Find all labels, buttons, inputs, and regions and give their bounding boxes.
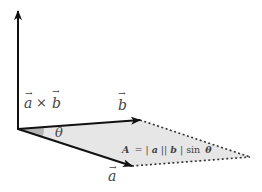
vector-b-label: b → bbox=[118, 88, 127, 113]
formula-A: A bbox=[121, 144, 129, 155]
cross-product-label: a → × b → bbox=[24, 86, 61, 111]
area-formula: A = | a || b | sin θ bbox=[121, 144, 212, 156]
arrow-accent: → bbox=[118, 88, 126, 98]
angle-theta-label: θ bbox=[55, 125, 63, 140]
formula-b: b bbox=[170, 144, 177, 155]
formula-sin: | sin bbox=[180, 144, 200, 156]
formula-eq: = | bbox=[134, 144, 148, 156]
vector-a-label: a → bbox=[108, 162, 117, 184]
formula-a: a bbox=[152, 144, 158, 155]
formula-theta: θ bbox=[205, 144, 212, 155]
cross-b-letter: b bbox=[52, 95, 61, 111]
arrow-accent: → bbox=[109, 162, 117, 172]
svg-text:A = | a ||: A = | a || b | sin θ bbox=[121, 144, 212, 156]
formula-mid: || bbox=[161, 144, 167, 156]
times-symbol: × bbox=[36, 95, 47, 110]
arrow-accent: → bbox=[52, 86, 60, 96]
b-letter: b bbox=[118, 97, 127, 113]
arrow-accent: → bbox=[25, 88, 33, 98]
cross-product-diagram: a → × b → b → a → θ A = | a || b | sin θ bbox=[0, 0, 262, 192]
